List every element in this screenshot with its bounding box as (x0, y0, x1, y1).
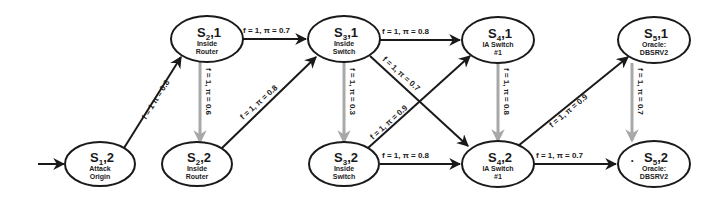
edge-s5_1-s5_2: f = 1, π = 0.7 (632, 63, 645, 140)
node-label-line2: Origin (90, 173, 111, 181)
node-s5_2: • S5,2 Oracle: DBSRV2 (618, 141, 690, 187)
node-s4_1: S4,1 IA Switch #1 (462, 17, 534, 63)
node-label-line2: Switch (333, 48, 356, 55)
edge-s2_2-s3_1: f = 1, π = 0.8 (222, 57, 316, 148)
edge-s3_1-s3_2: f = 1, π = 0.3 (344, 62, 357, 141)
node-label-line1: Inside (334, 40, 354, 47)
node-label-line1: IA Switch (482, 41, 513, 48)
node-label-line2: #1 (494, 49, 502, 56)
edge-label: f = 1, π = 0.8 (382, 27, 430, 36)
node-label-line2: Router (186, 173, 209, 180)
edge-label: f = 1, π = 0.6 (204, 68, 213, 116)
edge-label: f = 1, π = 0.8 (502, 68, 511, 116)
edge-label: f = 1 π = 0.8 (140, 78, 172, 121)
node-label-line2: Switch (333, 173, 356, 180)
edge-label: f = 1, π = 0.9 (368, 103, 409, 142)
node-s5_1: S5,1 Oracle: DBSRV2 (618, 17, 690, 63)
node-label-line1: Inside (187, 165, 207, 172)
node-label-line1: Inside (334, 165, 354, 172)
node-label-line1: Inside (197, 40, 217, 47)
node-label-line2: #1 (494, 173, 502, 180)
edge-s3_1-s4_1: f = 1, π = 0.8 (380, 27, 460, 40)
node-label-line2: Router (196, 48, 219, 55)
edge-label: f = 1, π = 0.7 (381, 55, 422, 94)
edge-s1_2-s2_1: f = 1 π = 0.8 (124, 57, 181, 148)
edge-label: f = 1, π = 0.8 (382, 151, 430, 160)
node-s3_2: S3,2 Inside Switch (309, 142, 379, 186)
node-label-line2: DBSRV2 (640, 49, 668, 56)
edge-s4_2-s5_1: f = 1, π = 0.9 (518, 57, 628, 146)
node-label-line1: Attack (89, 165, 111, 172)
edge-label: f = 1, π = 0.9 (548, 92, 590, 129)
node-s2_2: S2,2 Inside Router (162, 142, 232, 186)
edge-s3_2-s4_2: f = 1, π = 0.8 (380, 151, 460, 164)
attack-graph-diagram: f = 1 π = 0.8 f = 1, π = 0.7 f = 1, π = … (0, 0, 704, 200)
node-label-line1: Oracle: (642, 165, 666, 172)
edge-s2_1-s2_2: f = 1, π = 0.6 (200, 62, 213, 141)
node-label-line2: DBSRV2 (640, 173, 668, 180)
node-s2_1: S2,1 Inside Router (171, 16, 243, 62)
node-label-line1: Oracle: (642, 41, 666, 48)
node-s1_2: S1,2 Attack Origin (65, 142, 135, 186)
edge-label: f = 1, π = 0.7 (243, 26, 291, 35)
edge-s4_2-s5_2: f = 1, π = 0.7 (534, 151, 616, 164)
node-s3_1: S3,1 Inside Switch (308, 16, 380, 62)
edge-label: f = 1, π = 0.8 (238, 83, 279, 122)
edge-s4_1-s4_2: f = 1, π = 0.8 (498, 63, 511, 140)
edge-s2_1-s3_1: f = 1, π = 0.7 (243, 26, 306, 39)
edge-label: f = 1, π = 0.7 (536, 151, 584, 160)
node-label-line1: IA Switch (482, 165, 513, 172)
node-s4_2: S4,2 IA Switch #1 (462, 141, 534, 187)
edge-label: f = 1, π = 0.7 (636, 68, 645, 116)
edge-label: f = 1, π = 0.3 (348, 68, 357, 116)
